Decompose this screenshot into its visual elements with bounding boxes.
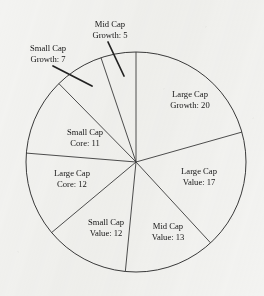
slice-label-large-cap-value: Large CapValue: 17 [181,166,217,187]
slice-label-value: Core: 11 [70,138,100,148]
slice-label-category: Mid Cap [95,19,125,29]
slice-label-category: Small Cap [88,217,124,227]
slice-label-category: Mid Cap [153,221,183,231]
slice-label-category: Small Cap [30,43,66,53]
slice-boundary-large-cap-value [136,132,242,162]
pie-chart: Large CapGrowth: 20Large CapValue: 17Mid… [0,0,264,296]
slice-boundary-small-cap-value [125,162,136,271]
slice-label-category: Large Cap [181,166,217,176]
slice-label-small-cap-value: Small CapValue: 12 [88,217,124,238]
slice-label-small-cap-growth: Small CapGrowth: 7 [30,43,66,64]
slice-boundary-small-cap-growth [59,84,136,162]
slice-label-small-cap-core: Small CapCore: 11 [67,127,103,148]
slice-label-category: Small Cap [67,127,103,137]
slice-label-value: Growth: 20 [170,100,209,110]
leader-line-mid-cap-growth [108,42,124,76]
slice-label-category: Large Cap [54,168,90,178]
slice-label-large-cap-core: Large CapCore: 12 [54,168,90,189]
pie-slice-boundaries [26,52,241,271]
slice-label-category: Large Cap [172,89,208,99]
slice-boundary-small-cap-core [26,153,136,162]
slice-boundary-mid-cap-growth [101,58,136,162]
slice-label-value: Value: 12 [90,228,123,238]
slice-label-value: Growth: 5 [92,30,127,40]
slice-label-large-cap-growth: Large CapGrowth: 20 [170,89,209,110]
slice-label-mid-cap-value: Mid CapValue: 13 [152,221,185,242]
slice-label-value: Core: 12 [57,179,87,189]
slice-label-mid-cap-growth: Mid CapGrowth: 5 [92,19,127,40]
slice-label-value: Growth: 7 [30,54,66,64]
slice-label-value: Value: 17 [183,177,216,187]
slice-label-value: Value: 13 [152,232,185,242]
